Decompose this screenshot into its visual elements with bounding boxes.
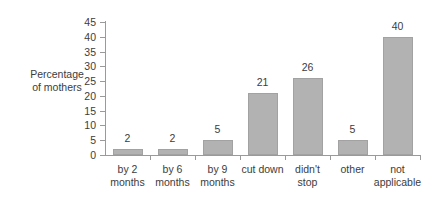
x-axis-tick: [375, 156, 376, 160]
x-axis-category-label-line: applicable: [367, 176, 429, 189]
x-axis-category-label: notapplicable: [367, 163, 429, 189]
y-axis-tick-label: 30: [70, 61, 96, 72]
bar: [248, 93, 278, 155]
bar-chart: Percentage of mothers 051015202530354045…: [0, 0, 438, 205]
x-axis-tick: [285, 156, 286, 160]
bar: [113, 149, 143, 155]
y-axis-tick-label: 10: [70, 120, 96, 131]
x-axis-tick: [240, 156, 241, 160]
x-axis-tick: [330, 156, 331, 160]
y-axis-tick-label: 25: [70, 76, 96, 87]
bar: [338, 140, 368, 155]
bar: [293, 78, 323, 155]
bar: [383, 37, 413, 155]
bar-value-label: 2: [151, 133, 195, 144]
bar-value-label: 2: [106, 133, 150, 144]
bar-value-label: 40: [376, 21, 420, 32]
y-axis-tick-label: 5: [70, 135, 96, 146]
y-axis-tick: [100, 155, 105, 156]
bar-value-label: 5: [196, 124, 240, 135]
x-axis-tick: [420, 156, 421, 160]
y-axis-tick-label: 40: [70, 32, 96, 43]
y-axis-tick-label: 35: [70, 47, 96, 58]
x-axis-tick: [150, 156, 151, 160]
x-axis-category-label-line: stop: [277, 176, 339, 189]
bar: [158, 149, 188, 155]
y-axis-tick-label: 0: [70, 150, 96, 161]
bar: [203, 140, 233, 155]
bar-value-label: 5: [331, 124, 375, 135]
bar-value-label: 26: [286, 62, 330, 73]
x-axis-line: [105, 155, 421, 156]
y-axis-tick-label: 20: [70, 91, 96, 102]
x-axis-category-label-line: months: [187, 176, 249, 189]
y-axis-tick-label: 45: [70, 17, 96, 28]
bar-value-label: 21: [241, 77, 285, 88]
x-axis-tick: [195, 156, 196, 160]
y-axis-tick-label: 15: [70, 106, 96, 117]
x-axis-category-label-line: not: [367, 163, 429, 176]
